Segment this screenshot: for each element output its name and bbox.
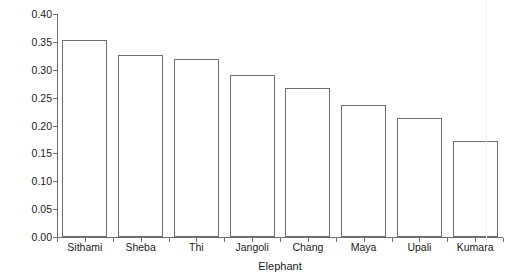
x-axis-tick-label: Sithami: [57, 240, 113, 254]
y-axis-tick-label: 0.25: [14, 93, 52, 103]
bar-series: [57, 14, 503, 238]
bar: [285, 88, 330, 237]
bar: [62, 40, 107, 237]
y-axis-tick-label: 0.30: [14, 65, 52, 75]
plot-area: [57, 14, 503, 238]
y-axis-tick-label: 0.05: [14, 204, 52, 214]
y-axis-tick-label: 0.10: [14, 176, 52, 186]
x-axis-tick-label: Upali: [392, 240, 448, 254]
y-axis-tick-label: 0.20: [14, 121, 52, 131]
bar: [341, 105, 386, 237]
y-axis-tick-label: 0.35: [14, 37, 52, 47]
y-axis-tick-label: 0.40: [14, 9, 52, 19]
bar: [174, 59, 219, 237]
y-axis-tick-label: 0.00: [14, 232, 52, 242]
x-axis-tick-label: Kumara: [447, 240, 503, 254]
bar: [397, 118, 442, 237]
bar: [230, 75, 275, 237]
bar-chart-figure: Mean monthly association index 0.000.050…: [0, 0, 511, 277]
x-axis-tick-label: Chang: [280, 240, 336, 254]
x-axis-tick-label: Thi: [169, 240, 225, 254]
x-axis-tick-label: Jangoli: [224, 240, 280, 254]
x-axis-tick-labels: SithamiShebaThiJangoliChangMayaUpaliKuma…: [57, 240, 503, 256]
x-axis-tick-mark: [503, 238, 504, 242]
bar: [453, 141, 498, 237]
x-axis-title: Elephant: [57, 259, 503, 273]
y-axis-tick-label: 0.15: [14, 148, 52, 158]
x-axis-tick-label: Sheba: [113, 240, 169, 254]
y-axis-tick-labels: 0.000.050.100.150.200.250.300.350.40: [14, 0, 52, 277]
bar: [118, 55, 163, 237]
edge-artifact-line: [486, 0, 487, 244]
x-axis-tick-label: Maya: [336, 240, 392, 254]
